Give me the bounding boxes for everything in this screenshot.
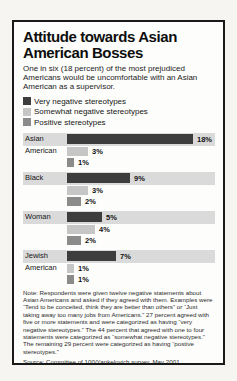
source-text: Source: Committee of 100/Yankelovich sur…	[23, 358, 215, 365]
group-band-row: Black9%	[23, 172, 215, 185]
category-label: Woman	[23, 213, 67, 221]
legend-swatch-positive-icon	[23, 118, 31, 126]
bar-segment	[67, 186, 88, 195]
bar-row: 1%	[23, 274, 215, 286]
bar-segment	[67, 134, 193, 144]
group-band-row: Asian18%	[23, 133, 215, 146]
bar-segment	[67, 264, 74, 273]
bar-value-label: 3%	[92, 186, 103, 195]
bar-segment	[67, 197, 81, 206]
bar-value-label: 3%	[92, 147, 103, 156]
bar-value-label: 5%	[106, 213, 117, 222]
bar-value-label: 1%	[78, 158, 89, 167]
bar-row: 4%	[23, 224, 215, 236]
bar-cell: 2%	[67, 236, 215, 245]
legend-item-positive: Positive stereotypes	[23, 117, 215, 128]
bar-value-label: 2%	[85, 236, 96, 245]
group-band-row: Woman5%	[23, 211, 215, 224]
bar-cell: 5%	[67, 212, 215, 222]
bar-cell: 4%	[67, 225, 215, 234]
bar-segment	[67, 212, 102, 222]
bar-value-label: 1%	[78, 264, 89, 273]
bar-cell: 7%	[67, 251, 215, 261]
bar-segment	[67, 251, 116, 261]
bar-cell: 3%	[67, 147, 215, 156]
legend-label: Positive stereotypes	[34, 118, 106, 127]
chart-title: Attitude towards Asian American Bosses	[23, 29, 215, 60]
legend-item-somewhat-negative: Somewhat negative stereotypes	[23, 107, 215, 118]
bar-row: 3%	[23, 185, 215, 197]
bar-row: 1%	[23, 157, 215, 169]
bar-row: 2%	[23, 235, 215, 247]
category-label: American	[23, 147, 67, 155]
bar-cell: 1%	[67, 264, 215, 273]
chart-subtitle: One in six (18 percent) of the most prej…	[23, 64, 215, 91]
group-band-row: Jewish7%	[23, 250, 215, 263]
category-label: American	[23, 264, 67, 272]
bar-cell: 2%	[67, 197, 215, 206]
bar-groups: Asian18%American3%1%Black9%3%2%Woman5%4%…	[23, 133, 215, 286]
legend-swatch-somewhat-negative-icon	[23, 108, 31, 116]
bar-segment	[67, 236, 81, 245]
bar-segment	[67, 158, 74, 167]
bar-group: Jewish7%American1%1%	[23, 250, 215, 286]
bar-cell: 1%	[67, 275, 215, 284]
bar-row: American1%	[23, 263, 215, 275]
legend-label: Somewhat negative stereotypes	[34, 107, 148, 116]
bar-value-label: 2%	[85, 197, 96, 206]
legend-swatch-very-negative-icon	[23, 97, 31, 105]
bar-cell: 9%	[67, 173, 215, 183]
bar-row: 2%	[23, 196, 215, 208]
bar-value-label: 18%	[197, 135, 212, 144]
legend: Very negative stereotypes Somewhat negat…	[23, 96, 215, 128]
bar-cell: 18%	[67, 134, 215, 144]
legend-label: Very negative stereotypes	[34, 97, 126, 106]
bar-cell: 3%	[67, 186, 215, 195]
bar-segment	[67, 225, 95, 234]
bar-value-label: 9%	[134, 174, 145, 183]
bar-group: Black9%3%2%	[23, 172, 215, 208]
chart-card: Attitude towards Asian American Bosses O…	[12, 20, 225, 365]
category-label: Jewish	[23, 252, 67, 260]
bar-segment	[67, 173, 130, 183]
bar-group: Woman5%4%2%	[23, 211, 215, 247]
bar-group: Asian18%American3%1%	[23, 133, 215, 169]
note-text: Note: Respondents were given twelve nega…	[23, 289, 215, 356]
bar-row: American3%	[23, 146, 215, 158]
bar-value-label: 4%	[99, 225, 110, 234]
category-label: Asian	[23, 135, 67, 143]
bar-segment	[67, 275, 74, 284]
category-label: Black	[23, 174, 67, 182]
bar-cell: 1%	[67, 158, 215, 167]
bar-value-label: 1%	[78, 275, 89, 284]
bar-segment	[67, 147, 88, 156]
bar-value-label: 7%	[120, 252, 131, 261]
legend-item-very-negative: Very negative stereotypes	[23, 96, 215, 107]
